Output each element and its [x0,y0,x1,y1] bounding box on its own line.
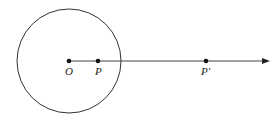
label-o: O [65,65,73,77]
point-p [96,59,101,64]
point-o [67,59,72,64]
label-p-prime: P′ [200,65,211,77]
point-p-prime [204,59,209,64]
label-p: P [94,65,102,77]
inversion-diagram: O P P′ [0,0,280,117]
arrowhead-icon [262,58,270,64]
